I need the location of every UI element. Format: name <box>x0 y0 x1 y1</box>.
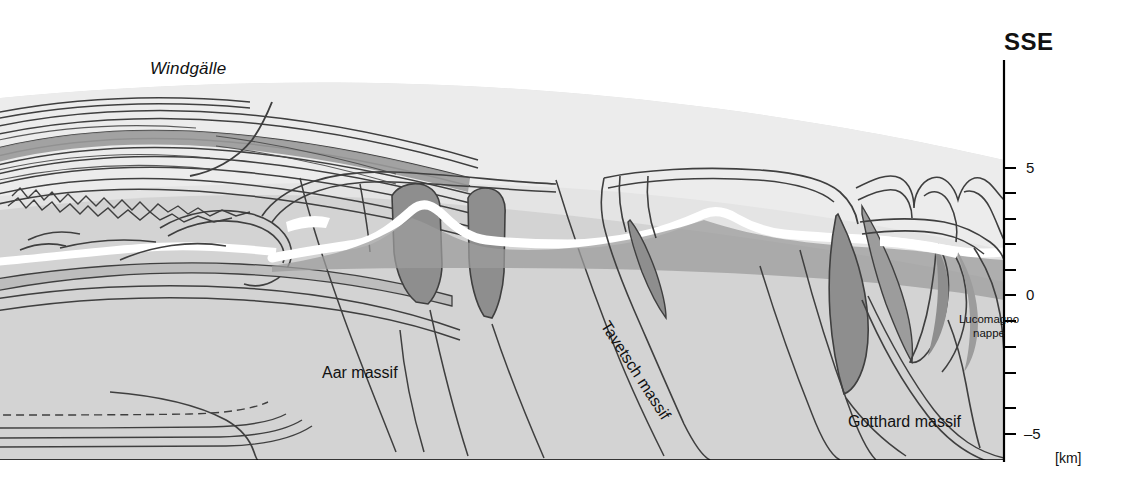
depth-axis <box>1004 60 1016 462</box>
cross-section-drawing <box>0 0 1122 484</box>
section-body <box>0 83 1004 466</box>
axis-unit-label: [km] <box>1055 450 1081 466</box>
axis-label-5: 5 <box>1026 159 1066 176</box>
cross-section-figure: Windgälle SSE Aar massif Tavetsch massif… <box>0 0 1122 484</box>
axis-label-0: 0 <box>1026 286 1066 303</box>
axis-label-minus-5: –5 <box>1024 425 1064 442</box>
